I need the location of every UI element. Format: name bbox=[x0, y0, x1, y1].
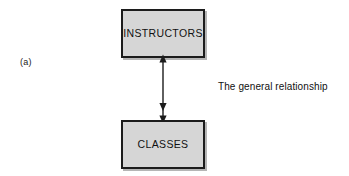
double-headed-arrow-icon bbox=[147, 53, 179, 125]
arrowhead-up bbox=[159, 55, 166, 63]
figure-caption: The general relationship bbox=[218, 81, 328, 92]
figure-canvas: (a) INSTRUCTORS CLASSES The general rela… bbox=[0, 0, 349, 176]
relationship-connector-arrow[interactable] bbox=[147, 53, 179, 125]
entity-box-instructors-label: INSTRUCTORS bbox=[123, 28, 203, 39]
figure-part-label: (a) bbox=[20, 57, 32, 67]
entity-box-classes[interactable]: CLASSES bbox=[121, 120, 205, 169]
entity-box-classes-label: CLASSES bbox=[138, 139, 189, 150]
arrowhead-mid-down bbox=[159, 103, 166, 111]
entity-box-instructors[interactable]: INSTRUCTORS bbox=[121, 9, 205, 58]
